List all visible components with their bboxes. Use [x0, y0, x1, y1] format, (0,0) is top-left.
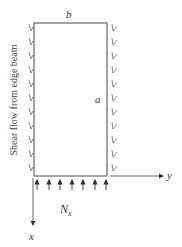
left-shear-arrows [29, 24, 33, 171]
load-label-main: N [60, 202, 68, 216]
x-axis-label: x [29, 231, 34, 242]
height-label-a: a [95, 94, 101, 105]
y-axis-label: y [167, 170, 172, 181]
side-note: Shear flow from edge beam [6, 30, 20, 170]
load-arrows [37, 180, 106, 190]
side-note-text: Shear flow from edge beam [8, 44, 19, 155]
width-label-b: b [66, 9, 72, 20]
load-label: Nx [60, 203, 72, 218]
diagram-canvas [0, 0, 182, 247]
right-shear-arrows [112, 24, 117, 171]
load-label-sub: x [68, 209, 72, 218]
